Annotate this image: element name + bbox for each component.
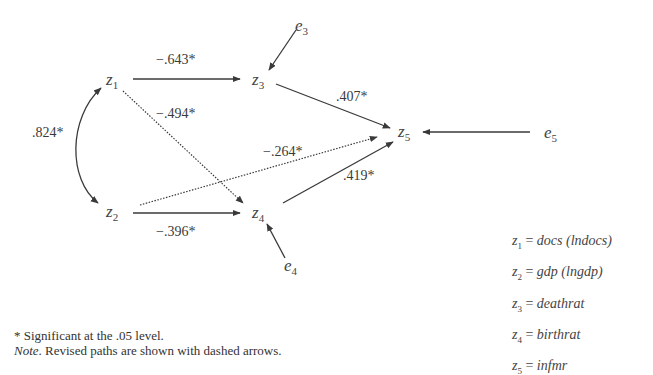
node-z2: z2: [105, 202, 118, 223]
node-e4: e4: [284, 256, 298, 277]
legend-row-z3: z3 = deathrat: [512, 291, 612, 322]
figure-notes: * Significant at the .05 level. Note. Re…: [14, 328, 282, 358]
path-e3-z3: [269, 30, 296, 70]
coef-z2-z5: −.264*: [263, 144, 302, 159]
coef-z4-z5: .419*: [343, 168, 375, 183]
variable-legend: z1 = docs (lndocs) z2 = gdp (lngdp) z3 =…: [512, 228, 612, 375]
coef-z1-z4: −.494*: [156, 106, 195, 121]
significance-note: * Significant at the .05 level.: [14, 328, 282, 343]
coef-z3-z5: .407*: [336, 89, 368, 104]
node-e3: e3: [295, 16, 309, 37]
node-e5: e5: [544, 123, 558, 144]
revision-note: Note. Revised paths are shown with dashe…: [14, 343, 282, 358]
node-z3: z3: [251, 70, 265, 91]
node-z4: z4: [251, 203, 265, 224]
coef-z1-z2: .824*: [32, 125, 64, 140]
path-z3-z5: [276, 84, 390, 128]
path-z1-z2-correlation: [76, 88, 101, 203]
path-e4-z4: [267, 224, 285, 258]
node-z1: z1: [105, 70, 118, 91]
legend-row-z2: z2 = gdp (lngdp): [512, 259, 612, 290]
coef-z2-z4: −.396*: [156, 224, 195, 239]
legend-row-z5: z5 = infmr: [512, 353, 612, 375]
legend-row-z4: z4 = birthrat: [512, 322, 612, 353]
legend-row-z1: z1 = docs (lndocs): [512, 228, 612, 259]
coef-z1-z3: −.643*: [156, 52, 195, 67]
node-z5: z5: [397, 122, 411, 143]
